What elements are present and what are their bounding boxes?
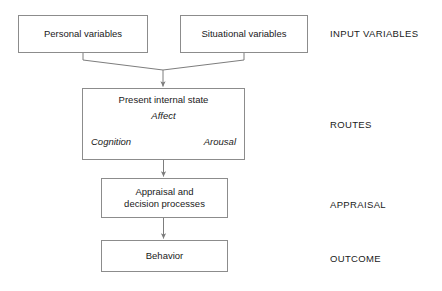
stage-label-appraisal: APPRAISAL <box>330 199 386 210</box>
node-present-internal-state[interactable]: Present internal state Affect Cognition … <box>82 88 245 160</box>
stage-label-outcome: OUTCOME <box>330 253 381 264</box>
diagram-canvas: Personal variables Situational variables… <box>0 0 442 291</box>
node-behavior-label: Behavior <box>146 250 184 262</box>
node-situational-variables-label: Situational variables <box>201 28 286 40</box>
route-term-cognition: Cognition <box>91 136 131 148</box>
stage-label-routes: ROUTES <box>330 119 372 130</box>
node-personal-variables[interactable]: Personal variables <box>18 15 148 53</box>
node-appraisal-decision-processes-label: Appraisal and decision processes <box>124 186 205 210</box>
route-term-affect: Affect <box>83 110 244 122</box>
route-term-arousal: Arousal <box>204 136 236 148</box>
node-behavior[interactable]: Behavior <box>101 240 228 272</box>
input-merge-connector <box>83 53 244 87</box>
node-present-internal-state-title: Present internal state <box>83 94 244 106</box>
node-appraisal-decision-processes[interactable]: Appraisal and decision processes <box>101 178 228 218</box>
internal-state-content: Present internal state Affect Cognition … <box>83 89 244 159</box>
node-situational-variables[interactable]: Situational variables <box>180 15 308 53</box>
stage-label-input-variables: INPUT VARIABLES <box>330 28 418 39</box>
node-personal-variables-label: Personal variables <box>44 28 122 40</box>
